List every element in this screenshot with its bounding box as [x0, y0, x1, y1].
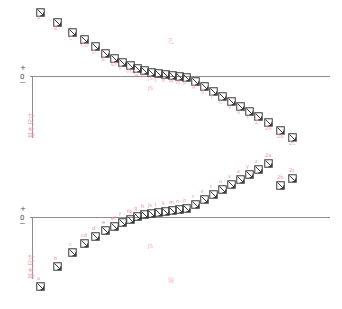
data-point-label: C — [69, 36, 73, 41]
data-point-label: D — [92, 50, 96, 55]
data-point-label: B — [54, 26, 58, 31]
data-point-marker — [236, 175, 245, 184]
data-point-label: T — [210, 95, 213, 100]
data-point-label: fg — [127, 209, 132, 214]
data-point-label: H — [141, 74, 145, 79]
data-point-label: f — [119, 212, 121, 217]
data-point-marker — [200, 195, 209, 204]
bottom-panel: + 0 － 基本尺寸 JS 轴 abccddeefffgghjsjkmnprst… — [0, 155, 342, 309]
data-point-label: Y — [246, 115, 249, 120]
data-point-marker — [68, 248, 77, 257]
data-point-label: J — [155, 77, 157, 82]
data-point-label: r — [192, 194, 194, 199]
data-point-marker — [264, 159, 273, 168]
top-panel-y-axis-caption: 基本尺寸 — [26, 112, 35, 138]
bottom-panel-axis-minus-sign: － — [19, 221, 26, 227]
data-point-label: X — [237, 110, 241, 115]
data-point-marker — [209, 190, 218, 199]
data-point-label: j — [155, 202, 156, 207]
data-point-label: JS — [148, 76, 153, 81]
data-point-label: s — [201, 189, 204, 194]
data-point-label: y — [246, 164, 249, 169]
data-point-label: h — [141, 204, 144, 209]
data-point-label: g — [134, 206, 137, 211]
data-point-label: M — [169, 79, 173, 84]
data-point-label: G — [134, 72, 138, 77]
data-point-marker — [254, 165, 263, 174]
data-point-label: 2b — [277, 175, 284, 180]
top-panel-axis-minus-sign: － — [19, 80, 26, 86]
data-point-label: 2C — [289, 141, 296, 146]
data-point-label: b — [54, 256, 57, 261]
data-point-marker — [245, 170, 254, 179]
data-point-label: n — [176, 199, 179, 204]
data-point-marker — [91, 232, 100, 241]
data-point-label: 2A — [265, 126, 272, 131]
data-point-label: V — [228, 105, 232, 110]
data-point-marker — [53, 262, 62, 271]
data-point-marker — [182, 204, 191, 213]
data-point-label: x — [237, 169, 240, 174]
data-point-label: t — [210, 184, 212, 189]
data-point-label: ef — [111, 216, 116, 221]
bottom-panel-note-1: 轴 — [168, 275, 174, 284]
data-point-label: c — [69, 242, 72, 247]
data-point-label: A — [37, 16, 41, 21]
data-point-label: Z — [255, 120, 259, 125]
data-point-label: cd — [81, 233, 87, 238]
data-point-label: js — [148, 203, 152, 208]
data-point-marker — [36, 282, 45, 291]
data-point-marker — [218, 185, 227, 194]
data-point-label: P — [183, 81, 186, 86]
data-point-label: z — [255, 159, 258, 164]
top-panel-note-0: 孔 — [168, 36, 174, 45]
data-point-label: R — [192, 85, 196, 90]
data-point-label: F — [119, 66, 122, 71]
data-point-label: e — [102, 220, 105, 225]
data-point-label: S — [201, 90, 204, 95]
data-point-marker — [80, 239, 89, 248]
data-point-label: N — [176, 80, 180, 85]
top-panel-axis-plus-sign: + — [20, 65, 26, 71]
data-point-label: k — [162, 201, 165, 206]
bottom-panel-y-axis-caption: 基本尺寸 — [26, 253, 35, 279]
data-point-label: p — [183, 198, 186, 203]
data-point-label: 2a — [265, 153, 271, 158]
data-point-marker — [288, 174, 297, 183]
data-point-label: a — [37, 276, 40, 281]
bottom-panel-note-0: JS — [148, 243, 153, 249]
data-point-label: E — [102, 57, 105, 62]
data-point-label: 2c — [289, 168, 295, 173]
data-point-label: m — [169, 200, 174, 205]
data-point-label: EF — [111, 62, 117, 67]
bottom-panel-axis-plus-sign: + — [20, 206, 26, 212]
figure-canvas: + 0 － 基本尺寸 孔 JS ABCCDDEEFFFGGHJSJKMNPRST… — [0, 0, 342, 309]
top-panel-note-1: JS — [148, 85, 153, 91]
data-point-label: d — [92, 226, 95, 231]
data-point-label: K — [162, 78, 165, 83]
data-point-marker — [227, 180, 236, 189]
data-point-label: u — [219, 179, 222, 184]
data-point-marker — [101, 226, 110, 235]
data-point-label: U — [219, 100, 223, 105]
data-point-label: 2B — [277, 134, 284, 139]
data-point-marker — [191, 200, 200, 209]
data-point-label: v — [228, 174, 231, 179]
bottom-panel-horizontal-axis — [30, 217, 330, 218]
top-panel: + 0 － 基本尺寸 孔 JS ABCCDDEEFFFGGHJSJKMNPRST… — [0, 0, 342, 154]
data-point-label: CD — [81, 43, 89, 48]
data-point-marker — [276, 181, 285, 190]
